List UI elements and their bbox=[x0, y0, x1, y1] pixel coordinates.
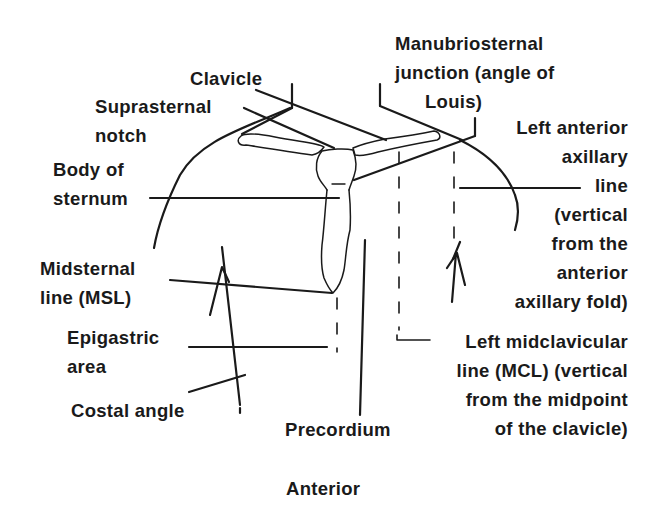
label-costal-angle: Costal angle bbox=[71, 396, 185, 425]
right-torso-outline bbox=[460, 140, 518, 230]
sternum-body-shape bbox=[321, 190, 350, 293]
label-precordium: Precordium bbox=[285, 415, 391, 444]
midsternal-line-leader bbox=[170, 280, 332, 293]
precordium-line bbox=[360, 240, 365, 415]
label-body-of-sternum: Body of sternum bbox=[53, 155, 128, 213]
label-suprasternal-notch: Suprasternal notch bbox=[95, 92, 212, 150]
anterior-axillary-arrow bbox=[447, 253, 465, 302]
label-midsternal-line: Midsternal line (MSL) bbox=[40, 254, 136, 312]
label-clavicle: Clavicle bbox=[190, 64, 262, 93]
anterior-chest-landmarks-diagram: Clavicle Suprasternal notch Manubrioster… bbox=[0, 0, 666, 514]
right-clavicle-shape bbox=[353, 131, 440, 155]
label-left-midclavicular-line: Left midclavicular line (MCL) (vertical … bbox=[457, 327, 629, 443]
caption-anterior: Anterior bbox=[286, 474, 360, 503]
label-manubriosternal-junction: Manubriosternal junction (angle of Louis… bbox=[395, 29, 555, 116]
midclavicular-leader bbox=[397, 335, 430, 340]
label-epigastric-area: Epigastric area bbox=[67, 323, 159, 381]
clavicle-branch bbox=[242, 108, 292, 134]
label-left-anterior-axillary-line: Left anterior axillary line (vertical fr… bbox=[515, 113, 628, 316]
